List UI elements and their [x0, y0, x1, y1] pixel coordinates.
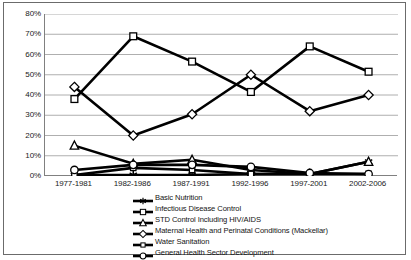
- marker-circle: [188, 161, 195, 168]
- y-tick-label: 30%: [7, 111, 41, 119]
- plot-area: [44, 14, 397, 176]
- figure-frame: 0%10%20%30%40%50%60%70%80% 1977-19811982…: [3, 2, 406, 255]
- plot-svg: [45, 14, 398, 176]
- marker-square: [71, 96, 78, 103]
- legend-label: Water Sanitation: [155, 237, 209, 246]
- legend-key-triangle-icon: [132, 214, 154, 224]
- marker-triangle: [70, 141, 78, 149]
- marker-square: [189, 58, 196, 65]
- legend-key-square-icon: [132, 203, 154, 213]
- legend-item: Water Sanitation: [132, 236, 400, 246]
- y-tick-label: 70%: [7, 30, 41, 38]
- chart-legend: Basic NutritionInfectious Disease Contro…: [132, 192, 400, 258]
- x-tick-label: 1987-1991: [173, 179, 210, 188]
- x-tick-label: 2002-2006: [349, 179, 386, 188]
- x-tick-label: 1997-2001: [290, 179, 327, 188]
- marker-diamond: [364, 90, 373, 99]
- y-tick-label: 80%: [7, 10, 41, 18]
- legend-label: General Health Sector Development: [155, 248, 274, 257]
- legend-key-circle-icon: [132, 247, 154, 257]
- y-tick-label: 50%: [7, 71, 41, 79]
- legend-item: Basic Nutrition: [132, 192, 400, 202]
- x-axis: 1977-19811982-19861987-19911992-19961997…: [44, 179, 397, 191]
- y-axis: 0%10%20%30%40%50%60%70%80%: [4, 14, 41, 176]
- marker-circle: [306, 169, 313, 176]
- marker-square-small: [248, 171, 253, 176]
- marker-circle: [130, 161, 137, 168]
- legend-key-star-icon: [132, 192, 154, 202]
- legend-item: General Health Sector Development: [132, 247, 400, 257]
- series-line: [74, 75, 368, 136]
- marker-square: [365, 68, 372, 75]
- y-tick-label: 0%: [7, 172, 41, 180]
- x-tick-label: 1977-1981: [55, 179, 92, 188]
- legend-label: Basic Nutrition: [155, 193, 202, 202]
- legend-item: Maternal Health and Perinatal Conditions…: [132, 225, 400, 235]
- series-line: [74, 36, 368, 99]
- marker-circle: [71, 166, 78, 173]
- marker-circle: [247, 163, 254, 170]
- y-tick-label: 20%: [7, 132, 41, 140]
- marker-circle: [365, 170, 372, 176]
- x-tick-label: 1992-1996: [231, 179, 268, 188]
- marker-circle: [140, 253, 146, 259]
- y-tick-label: 10%: [7, 152, 41, 160]
- legend-item: Infectious Disease Control: [132, 203, 400, 213]
- marker-square: [306, 43, 313, 50]
- legend-key-diamond-icon: [132, 225, 154, 235]
- chart-screenshot: 0%10%20%30%40%50%60%70%80% 1977-19811982…: [0, 0, 411, 260]
- marker-square: [248, 89, 255, 96]
- legend-item: STD Control Including HIV/AIDS: [132, 214, 400, 224]
- legend-label: STD Control Including HIV/AIDS: [155, 215, 261, 224]
- legend-key-square-small-icon: [132, 236, 154, 246]
- legend-label: Infectious Disease Control: [155, 204, 241, 213]
- marker-square: [130, 33, 137, 40]
- x-tick-label: 1982-1986: [114, 179, 151, 188]
- y-tick-label: 60%: [7, 51, 41, 59]
- y-tick-label: 40%: [7, 91, 41, 99]
- legend-label: Maternal Health and Perinatal Conditions…: [155, 226, 328, 235]
